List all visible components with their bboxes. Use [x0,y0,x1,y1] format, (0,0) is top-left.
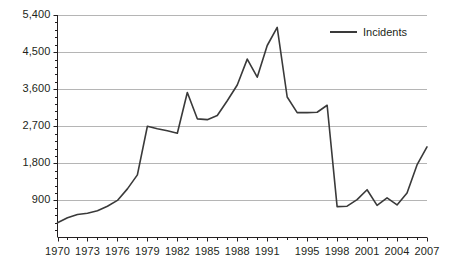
x-axis-ticks [59,238,428,242]
line-chart: 9001,8002,7003,6004,5005,400 19701973197… [0,0,450,264]
chart-plot-area [0,0,450,264]
x-tick-label-1991: 1991 [247,245,287,257]
legend-label-incidents: Incidents [363,26,407,38]
chart-legend: Incidents [330,26,407,38]
legend-line-swatch [330,31,357,33]
series-line-incidents [58,27,428,222]
y-tick-label-3600: 3,600 [22,82,50,94]
x-tick-label-2007: 2007 [407,245,447,257]
y-axis-major-ticks [54,16,58,201]
y-tick-label-1800: 1,800 [22,156,50,168]
gridlines [58,16,428,201]
y-tick-label-900: 900 [32,193,51,205]
y-tick-label-4500: 4,500 [22,45,50,57]
y-tick-label-5400: 5,400 [22,8,50,20]
y-tick-label-2700: 2,700 [22,119,50,131]
